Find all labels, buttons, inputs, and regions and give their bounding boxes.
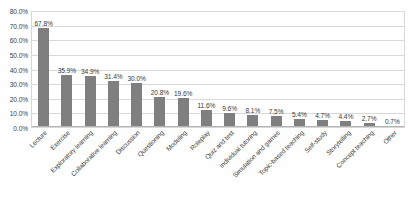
bar-value-label: 5.4%	[292, 111, 307, 118]
bar-slot: 11.6%	[195, 12, 218, 127]
y-axis-tick-label: 30.0%	[10, 81, 28, 88]
bar-slot: 5.4%	[288, 12, 311, 127]
bar-value-label: 35.9%	[58, 67, 76, 74]
bar	[178, 98, 189, 127]
bar-value-label: 4.7%	[315, 112, 330, 119]
x-axis-category-label: Exercise	[49, 129, 71, 151]
bar-slot: 9.6%	[218, 12, 241, 127]
x-axis-category-label: Exploratory learning	[49, 129, 94, 174]
bar	[131, 83, 142, 127]
bar-value-label: 7.5%	[269, 108, 284, 115]
bar-slot: 67.8%	[32, 12, 55, 127]
bar	[154, 97, 165, 127]
y-axis: 0.0%10.0%20.0%30.0%40.0%50.0%60.0%70.0%8…	[0, 0, 30, 199]
bar-slot: 2.7%	[358, 12, 381, 127]
bar	[38, 28, 49, 127]
bar-value-label: 19.6%	[174, 90, 192, 97]
bar-value-label: 0.7%	[385, 118, 400, 125]
bar-slot: 20.8%	[148, 12, 171, 127]
x-axis-category-label: Modeling	[165, 129, 188, 152]
bars-layer: 67.8%35.9%34.9%31.4%30.0%20.8%19.6%11.6%…	[32, 12, 404, 127]
bar-slot: 31.4%	[102, 12, 125, 127]
y-axis-tick-label: 20.0%	[10, 95, 28, 102]
x-axis-category-label: Lecture	[28, 129, 48, 149]
y-axis-tick-label: 70.0%	[10, 22, 28, 29]
bar-value-label: 30.0%	[128, 75, 146, 82]
bar-chart: 0.0%10.0%20.0%30.0%40.0%50.0%60.0%70.0%8…	[0, 0, 408, 199]
bar-slot: 7.5%	[265, 12, 288, 127]
bar-value-label: 9.6%	[222, 105, 237, 112]
bar-slot: 34.9%	[79, 12, 102, 127]
bar-value-label: 20.8%	[151, 89, 169, 96]
y-axis-tick-label: 0.0%	[13, 125, 28, 132]
bar-value-label: 8.1%	[246, 107, 261, 114]
y-axis-tick-label: 80.0%	[10, 8, 28, 15]
bar-value-label: 67.8%	[35, 20, 53, 27]
bar-slot: 30.0%	[125, 12, 148, 127]
x-axis: LectureExerciseExploratory learningColla…	[31, 129, 405, 199]
y-axis-tick-label: 50.0%	[10, 51, 28, 58]
bar-value-label: 31.4%	[104, 73, 122, 80]
axis-baseline	[32, 126, 404, 127]
x-axis-category-label: Roleplay	[189, 129, 212, 152]
x-axis-category-label: Collaborative learning	[69, 129, 117, 177]
bar	[61, 75, 72, 128]
bar	[108, 81, 119, 127]
bar-value-label: 34.9%	[81, 68, 99, 75]
bar-slot: 8.1%	[241, 12, 264, 127]
bar-slot: 4.4%	[334, 12, 357, 127]
bar-slot: 35.9%	[55, 12, 78, 127]
bar	[201, 110, 212, 127]
x-axis-category-label: Topic-based teaching	[257, 129, 305, 177]
y-axis-tick-label: 40.0%	[10, 66, 28, 73]
bar-value-label: 2.7%	[362, 115, 377, 122]
bar-slot: 4.7%	[311, 12, 334, 127]
y-axis-tick-label: 10.0%	[10, 110, 28, 117]
bar-slot: 0.7%	[381, 12, 404, 127]
bar-value-label: 11.6%	[198, 102, 216, 109]
y-axis-tick-label: 60.0%	[10, 37, 28, 44]
bar-slot: 19.6%	[172, 12, 195, 127]
plot-area: 67.8%35.9%34.9%31.4%30.0%20.8%19.6%11.6%…	[31, 11, 405, 128]
x-axis-category-label: Other	[382, 129, 398, 145]
bar	[85, 76, 96, 127]
bar-value-label: 4.4%	[339, 113, 354, 120]
bar	[224, 113, 235, 127]
